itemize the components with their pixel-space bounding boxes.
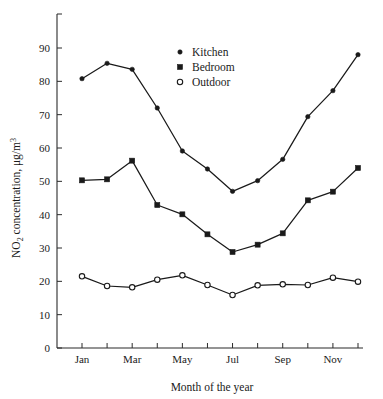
data-point-marker xyxy=(205,282,210,287)
data-point-marker xyxy=(280,231,285,236)
data-point-marker xyxy=(281,157,285,161)
x-axis-tick-labels: JanMarMayJulSepNov xyxy=(75,353,343,365)
data-point-marker xyxy=(130,158,135,163)
series-kitchen xyxy=(80,52,360,193)
data-point-marker xyxy=(129,285,134,290)
y-tick-label: 50 xyxy=(39,175,51,187)
data-point-marker xyxy=(79,274,84,279)
data-point-marker xyxy=(155,203,160,208)
data-point-marker xyxy=(155,277,160,282)
x-tick-label: Mar xyxy=(123,353,142,365)
data-point-marker xyxy=(330,275,335,280)
y-axis-title-prefix: NO xyxy=(10,241,22,258)
y-tick-label: 0 xyxy=(45,342,51,354)
y-tick-label: 10 xyxy=(39,309,51,321)
legend-marker-filled-square xyxy=(178,65,183,70)
data-point-marker xyxy=(255,283,260,288)
svg-text:NO2 concentration, μg/m3: NO2 concentration, μg/m3 xyxy=(9,138,25,258)
legend-entry-outdoor: Outdoor xyxy=(177,76,230,88)
data-point-marker xyxy=(205,167,209,171)
data-point-marker xyxy=(306,114,310,118)
data-point-marker xyxy=(180,273,185,278)
data-point-marker xyxy=(104,283,109,288)
x-tick-label: Jan xyxy=(75,353,90,365)
series-line xyxy=(82,275,358,295)
y-tick-label: 60 xyxy=(39,142,51,154)
data-point-marker xyxy=(205,232,210,237)
data-point-marker xyxy=(155,106,159,110)
data-point-marker xyxy=(130,67,134,71)
series-bedroom xyxy=(80,158,361,254)
data-point-marker xyxy=(330,189,335,194)
data-point-marker xyxy=(105,61,109,65)
data-point-marker xyxy=(230,189,234,193)
legend-label: Outdoor xyxy=(192,76,231,88)
chart-canvas: 0102030405060708090 JanMarMayJulSepNov K… xyxy=(0,0,383,399)
y-axis-title-middle: concentration, μg/m xyxy=(10,142,23,237)
data-point-marker xyxy=(80,178,85,183)
legend-marker-filled-circle xyxy=(178,50,182,54)
data-point-marker xyxy=(180,149,184,153)
y-axis-title: NO2 concentration, μg/m3 xyxy=(9,138,25,258)
data-point-marker xyxy=(230,292,235,297)
data-series-layer xyxy=(79,52,360,297)
x-axis-title: Month of the year xyxy=(171,381,254,394)
y-tick-label: 70 xyxy=(39,109,51,121)
data-point-marker xyxy=(105,177,110,182)
data-point-marker xyxy=(80,76,84,80)
x-tick-label: Sep xyxy=(274,353,291,365)
y-tick-label: 80 xyxy=(39,75,51,87)
data-point-marker xyxy=(356,166,361,171)
y-axis-tick-labels: 0102030405060708090 xyxy=(39,42,51,354)
chart-legend: KitchenBedroomOutdoor xyxy=(177,46,235,88)
data-point-marker xyxy=(305,282,310,287)
data-point-marker xyxy=(280,282,285,287)
data-point-marker xyxy=(230,250,235,255)
y-axis-ticks xyxy=(57,14,62,348)
chart-figure: 0102030405060708090 JanMarMayJulSepNov K… xyxy=(0,0,383,399)
data-point-marker xyxy=(255,242,260,247)
series-outdoor xyxy=(79,273,360,298)
legend-label: Kitchen xyxy=(192,46,229,58)
x-axis-ticks xyxy=(82,343,358,348)
y-tick-label: 30 xyxy=(39,242,51,254)
legend-marker-open-circle xyxy=(177,79,182,84)
y-tick-label: 20 xyxy=(39,275,51,287)
series-line xyxy=(82,161,358,252)
data-point-marker xyxy=(255,178,259,182)
x-tick-label: May xyxy=(172,353,193,365)
x-tick-label: Jul xyxy=(226,353,239,365)
data-point-marker xyxy=(180,212,185,217)
x-tick-label: Nov xyxy=(323,353,342,365)
y-axis-title-superscript: 3 xyxy=(9,138,18,142)
y-tick-label: 90 xyxy=(39,42,51,54)
data-point-marker xyxy=(331,88,335,92)
legend-entry-kitchen: Kitchen xyxy=(178,46,229,58)
y-tick-label: 40 xyxy=(39,209,51,221)
data-point-marker xyxy=(305,198,310,203)
data-point-marker xyxy=(355,279,360,284)
legend-entry-bedroom: Bedroom xyxy=(178,61,235,73)
data-point-marker xyxy=(356,52,360,56)
legend-label: Bedroom xyxy=(192,61,235,73)
